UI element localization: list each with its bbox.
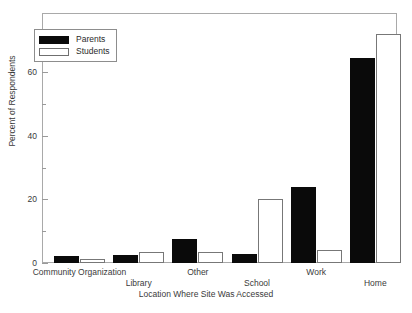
bar-parents-work: [291, 187, 316, 263]
bar-students-other: [198, 252, 223, 263]
bar-parents-school: [232, 254, 257, 263]
y-axis-tick-label: 40: [14, 132, 37, 140]
y-axis-tick-label: 0: [14, 259, 37, 267]
bar-students-home: [376, 34, 401, 263]
bar-students-community-organization: [80, 259, 105, 263]
y-axis-tick-major: [42, 72, 48, 73]
bar-parents-library: [113, 255, 138, 263]
bar-chart: 0204060 Percent of Respondents Parents S…: [0, 0, 412, 313]
bar-parents-home: [350, 58, 375, 263]
legend-label-students: Students: [76, 47, 110, 56]
y-axis-tick-major: [42, 136, 48, 137]
y-axis-title: Percent of Respondents: [7, 21, 17, 181]
y-axis-tick-minor: [42, 231, 46, 232]
bar-students-school: [258, 199, 283, 263]
y-axis-tick-label: 20: [14, 195, 37, 203]
x-axis-tick-label-home: Home: [300, 279, 412, 288]
bar-students-work: [317, 250, 342, 263]
bar-parents-community-organization: [54, 256, 79, 263]
y-axis-tick-label: 60: [14, 68, 37, 76]
legend-item-parents: Parents: [39, 34, 110, 45]
legend-item-students: Students: [39, 46, 110, 57]
legend-swatch-students-icon: [39, 48, 69, 56]
y-axis-tick-minor: [42, 168, 46, 169]
legend-label-parents: Parents: [76, 35, 105, 44]
y-axis-tick-major: [42, 199, 48, 200]
x-axis-title: Location Where Site Was Accessed: [0, 289, 412, 299]
bar-students-library: [139, 252, 164, 263]
bar-parents-other: [172, 239, 197, 263]
legend-swatch-parents-icon: [39, 36, 69, 44]
y-axis-tick-minor: [42, 104, 46, 105]
chart-legend: Parents Students: [34, 29, 117, 62]
y-axis-tick-major: [42, 263, 48, 264]
x-axis-tick-label-work: Work: [241, 268, 391, 277]
